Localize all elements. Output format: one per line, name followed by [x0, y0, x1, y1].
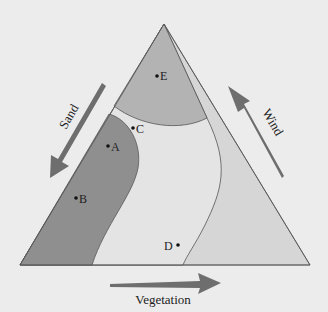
point-a-label: A	[111, 140, 120, 154]
wind-label: Wind	[259, 106, 286, 138]
point-b-label: B	[79, 192, 87, 206]
vegetation-arrow: Vegetation	[110, 273, 221, 307]
point-d-label: D	[164, 239, 173, 253]
diagram-svg: Sand Wind Vegetation E C A B D	[0, 0, 328, 312]
point-c-label: C	[136, 122, 144, 136]
ternary-diagram: Sand Wind Vegetation E C A B D	[0, 0, 328, 312]
vegetation-label: Vegetation	[135, 292, 191, 307]
point-e-label: E	[160, 69, 167, 83]
